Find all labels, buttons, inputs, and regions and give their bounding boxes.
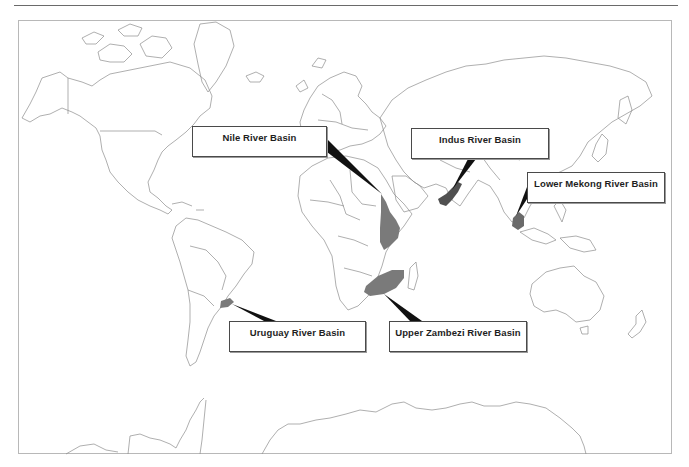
indus-basin (438, 182, 462, 206)
uruguay-leader (232, 304, 276, 321)
label-indus-river-basin: Indus River Basin (411, 128, 549, 159)
land-outlines (22, 22, 652, 454)
label-text: Uruguay River Basin (230, 327, 365, 338)
label-uruguay-river-basin: Uruguay River Basin (229, 321, 366, 352)
uruguay-basin (220, 298, 234, 308)
label-lower-mekong-river-basin: Lower Mekong River Basin (527, 172, 665, 203)
nile-leader (326, 138, 382, 194)
label-nile-river-basin: Nile River Basin (192, 126, 327, 157)
zambezi-leader (384, 294, 422, 321)
label-text: Lower Mekong River Basin (528, 178, 664, 189)
mekong-basin (512, 212, 524, 230)
zambezi-basin (364, 270, 404, 296)
label-upper-zambezi-river-basin: Upper Zambezi River Basin (389, 321, 527, 352)
basin-highlights (220, 182, 524, 308)
label-text: Indus River Basin (412, 134, 548, 145)
world-map (0, 0, 689, 467)
nile-basin (380, 194, 400, 250)
label-text: Upper Zambezi River Basin (390, 327, 526, 338)
label-text: Nile River Basin (193, 132, 326, 143)
